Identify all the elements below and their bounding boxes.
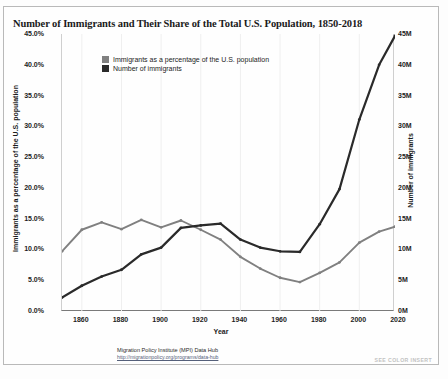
data-point — [120, 268, 123, 271]
data-point — [219, 238, 222, 241]
data-point — [140, 219, 143, 222]
data-point — [180, 227, 183, 230]
data-point — [259, 246, 262, 249]
y-axis-left-tick-label: 25.0% — [24, 153, 44, 160]
data-point — [378, 63, 381, 66]
y-axis-left-tick-label: 15.0% — [24, 215, 44, 222]
data-point — [100, 221, 103, 224]
y-axis-left-tick-label: 5.0% — [28, 276, 44, 283]
y-axis-right-tick-label: 40M — [398, 61, 412, 68]
data-point — [318, 271, 321, 274]
data-point — [239, 238, 242, 241]
x-axis-tick-label: 1980 — [311, 316, 327, 323]
data-point — [239, 255, 242, 258]
data-point — [318, 223, 321, 226]
data-point — [259, 267, 262, 270]
x-axis-tick-label: 1920 — [192, 316, 208, 323]
x-axis-title: Year — [4, 328, 438, 335]
y-axis-right-tick-label: 45M — [398, 30, 412, 37]
plot-area — [61, 34, 394, 311]
y-axis-right-tick-label: 10M — [398, 245, 412, 252]
legend-item-label: Number of immigrants — [113, 65, 182, 72]
chart-canvas — [62, 34, 395, 311]
data-point — [378, 230, 381, 233]
data-point — [120, 228, 123, 231]
data-point — [100, 275, 103, 278]
x-axis-tick-label: 1960 — [271, 316, 287, 323]
y-axis-left-tick-label: 10.0% — [24, 245, 44, 252]
legend-item-0[interactable]: Immigrants as a percentage of the U.S. p… — [102, 56, 269, 63]
data-point — [279, 276, 282, 279]
series-line-1 — [62, 36, 395, 298]
data-point — [140, 253, 143, 256]
data-point — [219, 222, 222, 225]
y-axis-left-tick-label: 20.0% — [24, 184, 44, 191]
color-insert-note: SEE COLOR INSERT — [375, 357, 432, 363]
chart-card: Number of Immigrants and Their Share of … — [3, 6, 439, 365]
y-axis-right-title: Number of immigrants — [407, 101, 414, 241]
y-axis-right-tick-label: 0M — [398, 307, 408, 314]
y-axis-left-tick-label: 0.0% — [28, 307, 44, 314]
y-axis-right-tick-label: 5M — [398, 276, 408, 283]
x-axis-tick-label: 1880 — [113, 316, 129, 323]
source-name: Migration Policy Institute (MPI) Data Hu… — [117, 347, 218, 353]
y-axis-left-tick-label: 30.0% — [24, 122, 44, 129]
data-point — [279, 250, 282, 253]
data-point — [160, 226, 163, 229]
data-point — [358, 241, 361, 244]
data-point — [358, 118, 361, 121]
data-point — [298, 251, 301, 254]
x-axis-tick-label: 2020 — [390, 316, 406, 323]
data-point — [80, 284, 83, 287]
x-axis-tick-label: 1900 — [152, 316, 168, 323]
data-point — [298, 281, 301, 284]
data-point — [160, 246, 163, 249]
x-axis-tick-label: 1860 — [73, 316, 89, 323]
y-axis-left-tick-label: 40.0% — [24, 61, 44, 68]
y-axis-left-tick-label: 35.0% — [24, 92, 44, 99]
chart-legend: Immigrants as a percentage of the U.S. p… — [102, 56, 269, 74]
legend-item-1[interactable]: Number of immigrants — [102, 65, 269, 72]
page-title: Number of Immigrants and Their Share of … — [13, 18, 433, 29]
legend-swatch-icon — [102, 56, 109, 63]
page-root: Number of Immigrants and Their Share of … — [0, 0, 448, 379]
legend-item-label: Immigrants as a percentage of the U.S. p… — [113, 56, 269, 63]
data-point — [80, 228, 83, 231]
data-point — [180, 219, 183, 222]
source-attribution: Migration Policy Institute (MPI) Data Hu… — [117, 347, 218, 360]
y-axis-left-tick-label: 45.0% — [24, 30, 44, 37]
data-point — [338, 188, 341, 191]
y-axis-right-tick-label: 35M — [398, 92, 412, 99]
y-axis-left-title: Immigrants as a percentage of the U.S. p… — [12, 74, 19, 264]
x-axis-tick-label: 2000 — [351, 316, 367, 323]
x-axis-tick-label: 1940 — [232, 316, 248, 323]
data-point — [199, 224, 202, 227]
data-point — [338, 261, 341, 264]
data-point — [199, 228, 202, 231]
legend-swatch-icon — [102, 65, 109, 72]
source-url-link[interactable]: http://migrationpolicy.org/programs/data… — [117, 354, 218, 360]
